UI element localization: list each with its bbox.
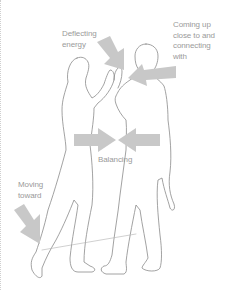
- diagram-canvas: Deflecting energy Coming up close to and…: [0, 0, 229, 290]
- arrow-balancing-right: [118, 128, 160, 152]
- label-moving-toward: Moving toward: [18, 180, 43, 201]
- label-deflecting-energy: Deflecting energy: [62, 29, 97, 50]
- arrow-moving-toward: [14, 204, 40, 244]
- label-coming-up-close: Coming up close to and connecting with: [173, 20, 215, 62]
- arrow-deflecting: [97, 36, 124, 70]
- hands: [114, 67, 122, 88]
- arrow-coming-up: [128, 64, 176, 86]
- label-balancing: Balancing: [98, 155, 132, 166]
- floor-line: [42, 234, 136, 250]
- arrow-balancing-left: [74, 128, 116, 152]
